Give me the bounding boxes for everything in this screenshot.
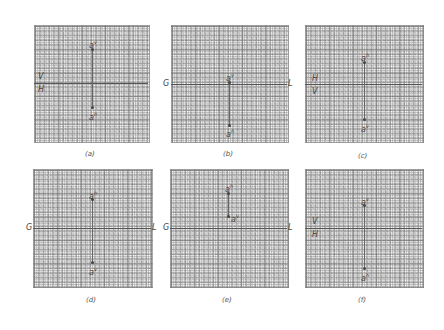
axis-label-g: G	[26, 224, 32, 232]
point-label-av: av	[89, 265, 97, 277]
point-label-ah: ah	[89, 189, 97, 201]
caption-d: (d)	[86, 296, 96, 304]
projector-line-c	[364, 62, 365, 120]
caption-e: (e)	[222, 296, 232, 304]
axis-label-l: L	[288, 80, 292, 88]
point-label-av: av	[89, 38, 97, 50]
projector-line-e	[228, 193, 229, 216]
axis-label-v: V	[312, 218, 317, 226]
point-label-av: av	[226, 71, 234, 83]
projector-line-a	[92, 49, 93, 107]
projector-line-f	[364, 205, 365, 268]
axis-label-l: L	[152, 224, 156, 232]
point-ah-dot	[363, 267, 366, 270]
caption-a: (a)	[85, 150, 95, 158]
point-av-dot	[227, 215, 230, 218]
axis-label-h: H	[312, 75, 318, 83]
axis-label-g: G	[163, 80, 169, 88]
point-label-av: av	[231, 212, 239, 224]
axis-label-l: L	[288, 224, 292, 232]
reference-line-gl-e	[170, 228, 287, 229]
point-label-ah: ah	[361, 271, 369, 283]
axis-label-h: H	[38, 86, 44, 94]
point-label-av: av	[361, 122, 369, 134]
point-av-dot	[91, 261, 94, 264]
projector-line-d	[92, 199, 93, 262]
point-label-ah: ah	[226, 127, 234, 139]
point-label-ah: ah	[225, 182, 233, 194]
caption-b: (b)	[223, 150, 233, 158]
point-label-ah: ah	[361, 51, 369, 63]
axis-label-g: G	[163, 224, 169, 232]
caption-c: (c)	[358, 152, 367, 160]
axis-label-v: V	[312, 88, 317, 96]
axis-label-h: H	[312, 231, 318, 239]
point-label-ah: ah	[89, 110, 97, 122]
reference-line-a	[34, 83, 148, 84]
caption-f: (f)	[358, 296, 366, 304]
axis-label-v: V	[38, 73, 43, 81]
point-ah-dot	[91, 106, 94, 109]
projector-line-b	[229, 82, 230, 126]
point-av-dot	[363, 118, 366, 121]
point-label-av: av	[361, 195, 369, 207]
